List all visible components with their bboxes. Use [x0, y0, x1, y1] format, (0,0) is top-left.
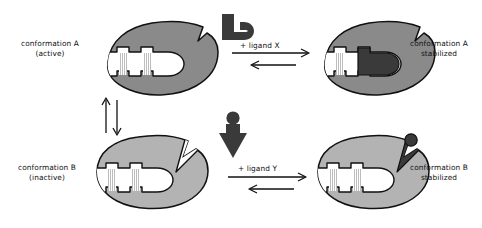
label-conformation-b: conformation B (inactive) — [0, 163, 94, 183]
label-conformation-b-stabilized: conformation B stabilized — [396, 163, 482, 183]
bound-ligand-y-knob — [405, 134, 417, 146]
binding-arrow-ligand-y — [228, 173, 306, 193]
label-conformation-a-stabilized: conformation A stabilized — [396, 39, 482, 59]
ligand-y-icon — [219, 111, 247, 158]
label-ligand-x: + ligand X — [240, 41, 280, 50]
binding-arrow-ligand-x — [232, 49, 309, 69]
ligand-x-icon — [222, 14, 254, 40]
protein-conformation-a-free — [103, 22, 218, 95]
label-ligand-y: + ligand Y — [238, 164, 277, 173]
label-conformation-a: conformation A (active) — [4, 39, 96, 59]
diagram-graphics — [0, 0, 482, 228]
diagram-canvas: conformation A (active) conformation A s… — [0, 0, 482, 228]
protein-conformation-b-free — [92, 136, 208, 209]
equilibrium-arrow-a-b — [102, 98, 121, 135]
